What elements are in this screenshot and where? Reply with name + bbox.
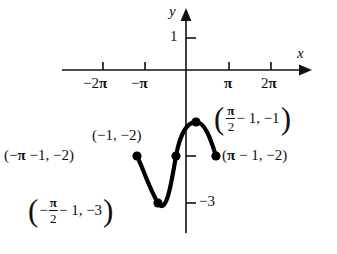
annotation-min-open-paren: (	[28, 198, 38, 223]
x-tick-label-minus-pi: −π	[131, 76, 148, 91]
pi-glyph: π	[139, 75, 147, 91]
annotation-left-close-paren: )	[69, 147, 74, 163]
annotation-left-two: 2	[61, 147, 69, 163]
annotation-max-close-paren: )	[281, 106, 291, 131]
pi-glyph: π	[224, 75, 232, 91]
annotation-mid-point: (−1, −2)	[92, 128, 141, 143]
annotation-left-minus2: −	[29, 147, 37, 163]
fraction-denominator: 2	[227, 120, 236, 133]
fraction-pi-over-2: π 2	[49, 196, 58, 225]
annotation-right-rest: − 1, −2	[239, 147, 282, 163]
annotation-max-open-paren: (	[214, 106, 224, 131]
annotation-minimum: ( − π 2 − 1, −3 )	[28, 196, 113, 225]
x-tick-label-pi: π	[224, 76, 232, 91]
x-tick-label-2pi: 2π	[261, 76, 277, 91]
x-axis-name: x	[297, 46, 304, 61]
annotation-min-close-paren: )	[103, 198, 113, 223]
x-tick-2pi-coef: 2	[261, 75, 269, 91]
y-axis	[181, 8, 192, 233]
annotation-maximum: ( π 2 − 1, −1 )	[214, 104, 291, 133]
point-maximum	[191, 117, 200, 126]
point-mid	[171, 151, 180, 160]
annotation-right-endpoint: (π − 1, −2)	[222, 148, 287, 163]
fraction-denominator: 2	[49, 212, 58, 225]
pi-glyph: π	[227, 147, 235, 163]
annotation-min-inner: − π 2 − 1, −3	[38, 196, 103, 225]
pi-glyph: π	[99, 75, 107, 91]
x-tick-minus-2pi-coef: 2	[91, 75, 99, 91]
point-left-endpoint	[132, 151, 141, 160]
x-tick-label-minus-2pi: −2π	[83, 76, 107, 91]
annotation-min-rest: − 1, −3	[59, 203, 102, 218]
annotation-max-rest: − 1, −1	[236, 111, 279, 126]
point-minimum	[153, 198, 162, 207]
annotation-min-lead-minus: −	[39, 203, 47, 218]
y-axis-name: y	[169, 4, 176, 19]
x-axis-ticks	[103, 62, 271, 70]
fraction-numerator: π	[226, 104, 235, 117]
point-right-endpoint	[211, 151, 220, 160]
pi-glyph: π	[17, 147, 25, 163]
y-tick-label-1: 1	[170, 29, 178, 44]
pi-glyph: π	[269, 75, 277, 91]
fraction-numerator: π	[49, 196, 58, 209]
annotation-left-one: 1,	[38, 147, 49, 163]
math-graph-figure: y x 1 −3 −2π −π π 2π (−π −1, −2) (−1, −2…	[0, 0, 337, 254]
x-axis	[62, 65, 312, 76]
annotation-left-endpoint: (−π −1, −2)	[4, 148, 74, 163]
fraction-pi-over-2: π 2	[226, 104, 235, 133]
annotation-max-inner: π 2 − 1, −1	[224, 104, 280, 133]
y-tick-label-minus3: −3	[199, 194, 215, 209]
